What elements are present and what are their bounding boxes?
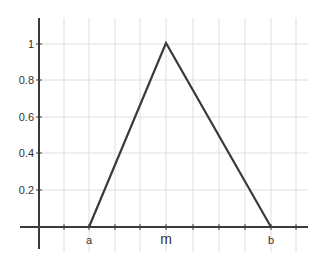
y-tick-label-0.6: 0.6 <box>19 111 34 123</box>
x-label-m: m <box>160 231 172 247</box>
x-label-a: a <box>86 234 93 246</box>
grid-horizontal <box>39 44 308 190</box>
y-tick-label-0.8: 0.8 <box>19 74 34 86</box>
y-tick-label-1: 1 <box>28 38 34 50</box>
y-tick-label-0.4: 0.4 <box>19 147 34 159</box>
y-tick-label-0.2: 0.2 <box>19 184 34 196</box>
triangle-line <box>89 43 271 227</box>
grid-vertical <box>64 18 296 252</box>
triangular-distribution-diagram: 1 0.8 0.6 0.4 0.2 a m b <box>0 0 326 265</box>
x-label-b: b <box>268 234 274 246</box>
